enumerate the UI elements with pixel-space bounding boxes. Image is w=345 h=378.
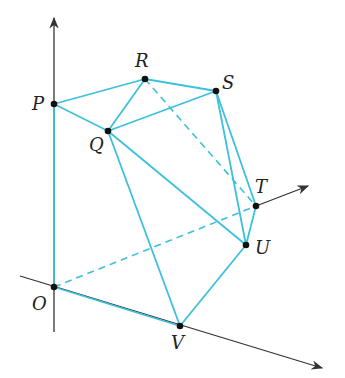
point-V: [177, 323, 184, 330]
point-Q: [105, 128, 112, 135]
label-O: O: [32, 293, 47, 314]
label-U: U: [255, 237, 271, 258]
edges-group: [54, 79, 256, 326]
diagram-canvas: PRQSTUOV: [0, 0, 345, 378]
label-P: P: [31, 93, 45, 114]
edge-SU: [216, 91, 246, 245]
label-T: T: [255, 176, 269, 197]
edge-PQ: [54, 104, 108, 131]
edge-OV: [54, 287, 180, 326]
label-Q: Q: [89, 134, 104, 155]
point-U: [243, 242, 250, 249]
label-S: S: [222, 72, 234, 93]
edge-RS: [145, 79, 216, 91]
point-O: [51, 284, 58, 291]
dashed-edge-OT: [54, 206, 256, 287]
point-P: [51, 101, 58, 108]
label-R: R: [134, 50, 149, 71]
point-R: [142, 76, 149, 83]
labels-group: PRQSTUOV: [31, 50, 271, 353]
dashed-edge-RT: [145, 79, 256, 206]
edge-QS: [108, 91, 216, 131]
edge-UV: [180, 245, 246, 326]
point-T: [253, 203, 260, 210]
edge-ST: [216, 91, 256, 206]
axes-group: [20, 18, 322, 368]
point-S: [213, 88, 220, 95]
edge-PR: [54, 79, 145, 104]
label-V: V: [171, 332, 186, 353]
